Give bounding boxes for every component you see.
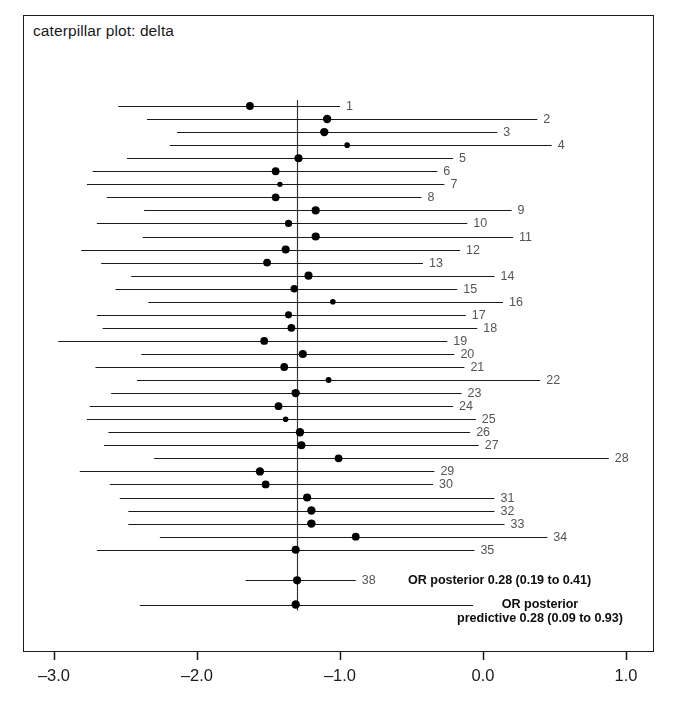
row-label: 21 bbox=[470, 360, 484, 374]
row-label: 25 bbox=[482, 412, 496, 426]
predictive-annotation-line1: OR posterior bbox=[502, 597, 578, 611]
row-label: 31 bbox=[500, 491, 514, 505]
row-label: 15 bbox=[463, 282, 477, 296]
caterpillar-plot-figure: caterpillar plot: delta –3.0–2.0–1.00.01… bbox=[0, 0, 674, 701]
row-label: 20 bbox=[460, 347, 474, 361]
row-label: 6 bbox=[443, 164, 450, 178]
x-axis-tick-label: –3.0 bbox=[38, 666, 70, 685]
row-label: 8 bbox=[428, 190, 435, 204]
row-label: 14 bbox=[500, 269, 514, 283]
row-label: 13 bbox=[429, 256, 443, 270]
row-label: 9 bbox=[518, 203, 525, 217]
row-label: 17 bbox=[472, 308, 486, 322]
row-label: 35 bbox=[480, 543, 494, 557]
posterior-annotation: OR posterior 0.28 (0.19 to 0.41) bbox=[408, 573, 591, 587]
row-label: 23 bbox=[468, 386, 482, 400]
row-label: 29 bbox=[440, 464, 454, 478]
row-label: 18 bbox=[483, 321, 497, 335]
row-label: 24 bbox=[459, 399, 473, 413]
row-label: 11 bbox=[519, 230, 532, 244]
row-label: 10 bbox=[473, 216, 487, 230]
row-label: 34 bbox=[553, 530, 567, 544]
x-axis-tick-label: 0.0 bbox=[472, 666, 495, 685]
row-label: 27 bbox=[485, 438, 499, 452]
page-title: caterpillar plot: delta bbox=[33, 22, 174, 40]
row-label: 16 bbox=[509, 295, 523, 309]
row-label: 1 bbox=[346, 99, 353, 113]
row-label: 38 bbox=[362, 573, 376, 587]
row-label: 26 bbox=[476, 425, 490, 439]
plot-frame bbox=[23, 15, 654, 652]
row-label: 30 bbox=[439, 477, 453, 491]
row-label: 3 bbox=[503, 125, 510, 139]
row-label: 22 bbox=[546, 373, 560, 387]
row-label: 32 bbox=[500, 504, 514, 518]
predictive-annotation-line2: predictive 0.28 (0.09 to 0.93) bbox=[457, 611, 623, 625]
row-label: 5 bbox=[459, 151, 466, 165]
x-axis-tick-label: –2.0 bbox=[181, 666, 213, 685]
row-label: 4 bbox=[558, 138, 565, 152]
row-label: 7 bbox=[450, 177, 457, 191]
x-axis-tick-label: 1.0 bbox=[615, 666, 638, 685]
row-label: 33 bbox=[510, 517, 524, 531]
row-label: 12 bbox=[466, 243, 480, 257]
x-axis-tick-label: –1.0 bbox=[324, 666, 356, 685]
row-label: 2 bbox=[543, 112, 550, 126]
row-label: 19 bbox=[453, 334, 467, 348]
row-label: 28 bbox=[615, 451, 629, 465]
